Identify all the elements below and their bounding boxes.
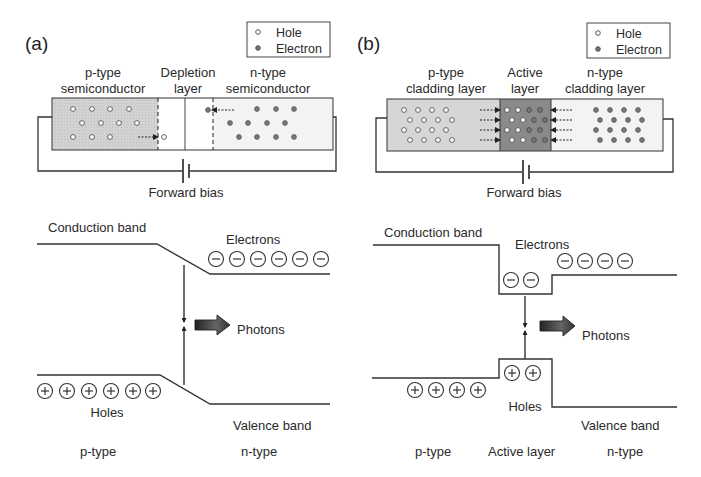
panel-a-label: (a) [25,33,48,54]
n-type-region-label: n-type [250,65,286,80]
electrons-label: Electrons [226,232,281,247]
panel-a: (a) Hole Electron p-type semiconductor D… [25,22,336,459]
electron-legend-icon [256,46,261,51]
depletion-layer-sublabel: layer [174,81,203,96]
holes-label: Holes [90,405,124,420]
active-layer-label: Active [507,65,542,80]
photon-arrow-icon [540,316,575,336]
bottom-p-type-label: p-type [80,444,116,459]
valence-band-label: Valence band [233,418,312,433]
n-cladding-sublabel: cladding layer [565,81,646,96]
hole-carriers [38,384,161,399]
electron-carriers [209,252,329,267]
hole-carriers [408,366,541,398]
conduction-band-line [373,245,677,294]
legend-electron-label: Electron [616,43,662,57]
panel-a-legend: Hole Electron [247,22,330,57]
conduction-band-label: Conduction band [48,220,146,235]
legend-hole-label: Hole [616,27,642,41]
bottom-active-layer-label: Active layer [488,444,556,459]
electron-legend-icon [596,47,601,52]
panel-b-legend: Hole Electron [587,23,670,58]
panel-a-band-diagram: Conduction band Electrons Photons [37,220,330,459]
photons-label: Photons [237,322,285,337]
p-cladding-label: p-type [428,65,464,80]
forward-bias-label: Forward bias [486,185,562,200]
panel-b: (b) Hole Electron p-type cladding layer … [357,23,677,459]
bottom-n-type-label: n-type [607,444,643,459]
holes-label: Holes [508,399,542,414]
bottom-p-type-label: p-type [415,444,451,459]
n-type-region-sublabel: semiconductor [226,81,311,96]
legend-hole-label: Hole [276,26,302,40]
bottom-n-type-label: n-type [241,444,277,459]
electrons-label: Electrons [515,237,570,252]
p-type-region-label: p-type [85,65,121,80]
electron-carriers [504,254,633,288]
photons-label: Photons [582,328,630,343]
p-type-region-sublabel: semiconductor [61,81,146,96]
hole-legend-icon [256,30,261,35]
active-layer-sublabel: layer [511,81,540,96]
pn-junction-block [52,98,333,150]
conduction-band-label: Conduction band [384,225,482,240]
photon-arrow-icon [195,315,230,335]
double-heterostructure-block [387,99,663,151]
valence-band-label: Valence band [581,418,660,433]
led-band-diagram-figure: (a) Hole Electron p-type semiconductor D… [0,0,701,477]
p-cladding-sublabel: cladding layer [406,81,487,96]
forward-bias-label: Forward bias [148,185,224,200]
n-cladding-label: n-type [587,65,623,80]
hole-legend-icon [596,31,601,36]
depletion-layer-label: Depletion [161,65,216,80]
panel-b-band-diagram: Conduction band Electrons Photons [372,225,677,459]
legend-electron-label: Electron [276,42,322,56]
panel-b-label: (b) [357,33,380,54]
